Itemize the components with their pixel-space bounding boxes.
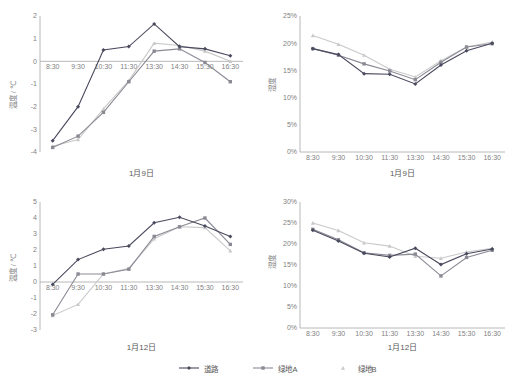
- chart-title: 1月12日: [127, 343, 156, 352]
- y-tick-label: 20%: [283, 40, 297, 47]
- data-point-绿地B: [341, 366, 345, 370]
- y-axis-title: 温度 / ℃: [8, 254, 18, 283]
- x-tick-label: 15:30: [458, 154, 476, 161]
- data-point-道路: [228, 54, 232, 58]
- y-tick-label: 2: [33, 12, 37, 19]
- x-tick-label: 13:30: [145, 63, 163, 70]
- y-tick-label: -1: [31, 294, 37, 301]
- y-tick-label: 15%: [283, 67, 297, 74]
- data-point-绿地A: [178, 225, 181, 228]
- y-tick-label: 4: [33, 214, 37, 221]
- data-point-道路: [228, 234, 232, 238]
- data-point-绿地A: [76, 134, 79, 137]
- x-tick-label: 16:30: [483, 330, 501, 337]
- y-tick-label: 3: [33, 230, 37, 237]
- y-tick-label: 1: [33, 35, 37, 42]
- data-point-绿地A: [229, 243, 232, 246]
- x-tick-label: 14:30: [432, 154, 450, 161]
- y-tick-label: 0: [33, 58, 37, 65]
- chart-svg-humidity-jan12: 30%25%20%15%10%5%0%8:309:3010:3011:3013:…: [258, 190, 515, 355]
- chart-title: 1月9日: [390, 169, 415, 178]
- series-line-绿地B: [53, 227, 231, 316]
- data-point-绿地A: [203, 216, 206, 219]
- y-tick-label: 1: [33, 262, 37, 269]
- data-point-绿地A: [414, 78, 417, 81]
- data-point-绿地A: [362, 62, 365, 65]
- legend-item-road[interactable]: 道路: [178, 363, 218, 374]
- y-tick-label: 0%: [287, 324, 297, 331]
- y-tick-label: -3: [31, 126, 37, 133]
- x-tick-label: 8:30: [306, 330, 320, 337]
- y-tick-label: 10%: [283, 94, 297, 101]
- data-point-绿地A: [203, 61, 206, 64]
- y-axis-title: 温度 / ℃: [8, 81, 18, 110]
- data-point-绿地A: [102, 111, 105, 114]
- chart-panel-humidity-jan12: 30%25%20%15%10%5%0%8:309:3010:3011:3013:…: [258, 190, 515, 355]
- series-line-绿地A: [53, 218, 231, 315]
- legend-label: 道路: [204, 363, 218, 374]
- x-tick-label: 11:30: [120, 63, 137, 70]
- legend-items: 道路绿地A绿地B: [0, 355, 515, 381]
- y-tick-label: 5: [33, 198, 37, 205]
- data-point-道路: [187, 366, 191, 370]
- data-point-绿地A: [51, 146, 54, 149]
- chart-panel-temp-jan9: 210-1-2-3-48:309:3010:3011:3013:3014:301…: [0, 0, 258, 190]
- y-tick-label: 25%: [283, 12, 297, 19]
- y-tick-label: -3: [31, 326, 37, 333]
- y-tick-label: 30%: [283, 198, 297, 205]
- y-tick-label: -2: [31, 310, 37, 317]
- data-point-绿地A: [465, 256, 468, 259]
- data-point-绿地A: [127, 268, 130, 271]
- y-tick-label: 20%: [283, 240, 297, 247]
- x-tick-label: 16:30: [222, 63, 240, 70]
- x-tick-label: 13:30: [145, 284, 163, 291]
- data-point-道路: [101, 48, 105, 52]
- x-tick-label: 9:30: [71, 63, 85, 70]
- series-line-道路: [313, 230, 492, 264]
- data-point-绿地A: [152, 49, 155, 52]
- data-point-绿地A: [76, 272, 79, 275]
- y-tick-label: 0: [33, 278, 37, 285]
- x-tick-label: 15:30: [458, 330, 476, 337]
- y-tick-label: 2: [33, 246, 37, 253]
- chart-panel-humidity-jan9: 25%20%15%10%5%0%8:309:3010:3011:3013:301…: [258, 0, 515, 190]
- data-point-绿地A: [262, 366, 265, 369]
- y-tick-label: 0%: [287, 148, 297, 155]
- chart-svg-temp-jan9: 210-1-2-3-48:309:3010:3011:3013:3014:301…: [0, 0, 258, 190]
- y-tick-label: 25%: [283, 219, 297, 226]
- chart-svg-temp-jan12: 543210-1-2-38:309:3010:3011:3013:3014:30…: [0, 190, 258, 355]
- x-tick-label: 14:30: [171, 284, 189, 291]
- series-line-道路: [313, 43, 492, 84]
- data-point-道路: [388, 72, 392, 76]
- legend-marker-square-icon: [252, 363, 274, 373]
- data-point-绿地A: [102, 272, 105, 275]
- y-tick-label: -2: [31, 103, 37, 110]
- y-tick-label: -1: [31, 80, 37, 87]
- y-tick-label: -4: [31, 148, 37, 155]
- x-tick-label: 14:30: [432, 330, 450, 337]
- figure-legend: 道路绿地A绿地B: [0, 355, 515, 381]
- legend-item-greenB[interactable]: 绿地B: [332, 363, 377, 374]
- legend-item-greenA[interactable]: 绿地A: [252, 363, 297, 374]
- x-tick-label: 9:30: [71, 284, 85, 291]
- x-tick-label: 9:30: [332, 154, 346, 161]
- legend-marker-diamond-icon: [178, 363, 200, 373]
- y-tick-label: 10%: [283, 282, 297, 289]
- x-tick-label: 16:30: [222, 284, 240, 291]
- series-line-绿地A: [313, 44, 492, 80]
- data-point-绿地A: [229, 80, 232, 83]
- data-point-绿地A: [388, 69, 391, 72]
- data-point-绿地A: [152, 235, 155, 238]
- y-tick-label: 5%: [287, 303, 297, 310]
- data-point-绿地B: [311, 34, 315, 38]
- x-tick-label: 13:30: [407, 330, 425, 337]
- x-tick-label: 14:30: [171, 63, 189, 70]
- x-tick-label: 8:30: [306, 154, 320, 161]
- data-point-绿地A: [127, 80, 130, 83]
- legend-label: 绿地A: [278, 363, 297, 374]
- data-point-绿地A: [414, 252, 417, 255]
- chart-panel-temp-jan12: 543210-1-2-38:309:3010:3011:3013:3014:30…: [0, 190, 258, 355]
- series-line-道路: [53, 24, 231, 141]
- x-tick-label: 13:30: [407, 154, 425, 161]
- x-tick-label: 11:30: [381, 330, 398, 337]
